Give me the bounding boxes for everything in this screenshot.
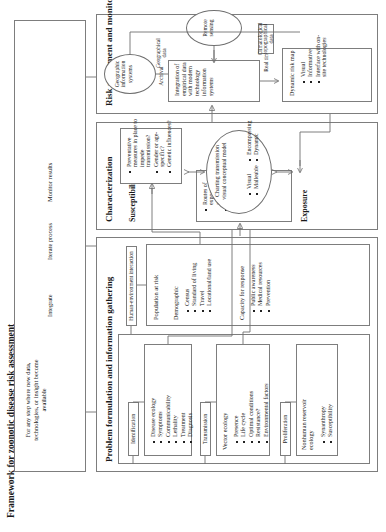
diagram-canvas: Framework for zoonotic disease risk asse… [0, 0, 386, 532]
rotated-figure-canvas: Framework for zoonotic disease risk asse… [0, 0, 386, 532]
connector-wires [0, 0, 386, 532]
